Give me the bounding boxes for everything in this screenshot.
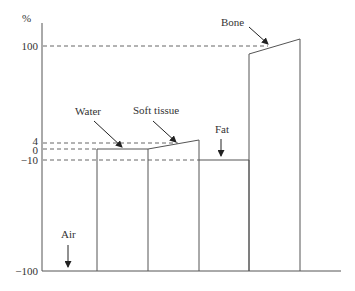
bone-arrow-icon [249, 27, 268, 44]
bone-block [249, 39, 300, 271]
soft-tissue-label: Soft tissue [133, 105, 179, 116]
y-axis-unit-label: % [22, 13, 31, 24]
tick-label-minus10: −10 [2, 155, 38, 166]
fat-block [199, 160, 249, 271]
water-block [97, 149, 148, 271]
bone-label: Bone [221, 17, 244, 28]
tick-label-100: 100 [2, 41, 38, 52]
soft-tissue-arrow-icon [153, 121, 176, 142]
air-label: Air [61, 229, 76, 240]
chart-canvas [0, 0, 355, 291]
tick-label-minus100: −100 [2, 266, 38, 277]
fat-label: Fat [215, 124, 229, 135]
water-label: Water [75, 106, 101, 117]
